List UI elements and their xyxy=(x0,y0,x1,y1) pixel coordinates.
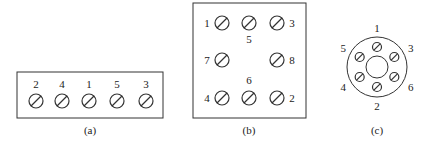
terminal-screw-2 xyxy=(373,83,382,92)
terminal-label: 5 xyxy=(114,78,120,90)
panel-a-caption: (a) xyxy=(84,124,97,137)
terminal-label: 2 xyxy=(374,100,380,112)
terminal-screw-6 xyxy=(390,73,399,82)
terminal-label: 3 xyxy=(289,17,295,29)
screw-slot xyxy=(244,93,255,104)
screw-slot xyxy=(84,96,95,107)
terminal-diagrams: 24153 (a) 15378462 (b) 136245 (c) xyxy=(0,0,425,153)
screw-slot xyxy=(217,18,228,29)
screw-slot xyxy=(217,93,228,104)
screw-slot xyxy=(391,54,398,61)
terminal-screw-5 xyxy=(110,94,124,108)
terminal-label: 3 xyxy=(143,78,149,90)
panel-c-caption: (c) xyxy=(371,124,384,137)
screw-slot xyxy=(356,54,363,61)
terminal-label: 1 xyxy=(204,17,210,29)
screw-slot xyxy=(374,84,381,91)
terminal-label: 1 xyxy=(374,22,380,34)
screw-slot xyxy=(356,74,363,81)
screw-slot xyxy=(141,96,152,107)
terminal-label: 6 xyxy=(246,74,252,86)
screw-slot xyxy=(272,55,283,66)
terminal-label: 1 xyxy=(86,78,92,90)
screw-slot xyxy=(272,93,283,104)
screw-slot xyxy=(112,96,123,107)
terminal-screw-4 xyxy=(215,91,229,105)
terminal-screw-3 xyxy=(390,53,399,62)
socket-outer-ring xyxy=(347,37,407,97)
terminal-label: 3 xyxy=(408,42,414,54)
screw-slot xyxy=(57,96,68,107)
screw-slot xyxy=(374,44,381,51)
panel-c: 136245 (c) xyxy=(340,22,414,137)
terminal-label: 4 xyxy=(59,78,65,90)
terminal-label: 6 xyxy=(408,81,414,93)
terminal-label: 4 xyxy=(204,92,210,104)
screw-slot xyxy=(217,55,228,66)
screw-slot xyxy=(244,18,255,29)
terminal-screw-5 xyxy=(355,53,364,62)
terminal-screw-2 xyxy=(29,94,43,108)
terminal-label: 8 xyxy=(289,54,295,66)
panel-a: 24153 (a) xyxy=(17,72,163,137)
terminal-label: 2 xyxy=(289,92,295,104)
panel-b-caption: (b) xyxy=(243,124,256,137)
socket-center-hole xyxy=(366,56,388,78)
terminal-label: 7 xyxy=(204,54,210,66)
terminal-screw-1 xyxy=(215,16,229,30)
terminal-screw-6 xyxy=(242,91,256,105)
terminal-screw-5 xyxy=(242,16,256,30)
terminal-screw-1 xyxy=(82,94,96,108)
screw-slot xyxy=(31,96,42,107)
terminal-screw-8 xyxy=(270,53,284,67)
terminal-screw-4 xyxy=(55,94,69,108)
terminal-screw-2 xyxy=(270,91,284,105)
terminal-label: 5 xyxy=(340,42,346,54)
panel-b: 15378462 (b) xyxy=(193,3,306,137)
terminal-screw-1 xyxy=(373,43,382,52)
terminal-screw-3 xyxy=(270,16,284,30)
terminal-screw-7 xyxy=(215,53,229,67)
terminal-screw-3 xyxy=(139,94,153,108)
terminal-screw-4 xyxy=(355,73,364,82)
terminal-label: 4 xyxy=(340,81,346,93)
screw-slot xyxy=(272,18,283,29)
screw-slot xyxy=(391,74,398,81)
terminal-label: 2 xyxy=(33,78,39,90)
terminal-label: 5 xyxy=(246,33,252,45)
